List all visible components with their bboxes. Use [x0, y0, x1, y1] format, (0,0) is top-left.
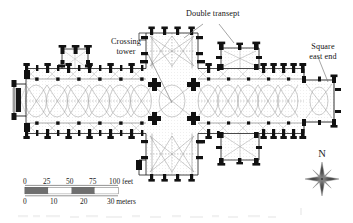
leader-double-transept-right	[219, 24, 234, 43]
figure-canvas: Double transept Crossing tower Square ea…	[0, 0, 353, 223]
scale-meters-tick-20: 20	[80, 197, 87, 206]
scale-bar-graphic	[25, 185, 118, 195]
annotation-label-double-transept: Double transept	[186, 9, 240, 19]
scale-feet-tick-50: 50	[66, 177, 73, 186]
square-east-end-line-1: Square	[300, 42, 346, 52]
scale-meters-tick-0: 0	[23, 197, 27, 206]
square-east-end-line-2: east end	[300, 52, 346, 62]
page-crop-artifact	[18, 208, 302, 218]
annotation-label-crossing-tower: Crossing tower	[103, 37, 149, 56]
scale-feet-tick-75: 75	[89, 177, 96, 186]
scale-feet-tick-0: 0	[23, 177, 27, 186]
scale-feet-tick-25: 25	[43, 177, 50, 186]
crossing-tower-line-2: tower	[103, 47, 149, 57]
compass-north-label: N	[314, 148, 330, 159]
compass-rose-icon	[305, 162, 339, 196]
scale-meters-tick-10: 10	[50, 197, 57, 206]
annotation-label-square-east-end: Square east end	[300, 42, 346, 61]
scale-feet-unit: 100 feet	[109, 177, 133, 186]
cathedral-plan-drawing	[0, 0, 353, 223]
crossing-tower-line-1: Crossing	[103, 37, 149, 47]
scale-meters-unit: 30 meters	[107, 197, 136, 206]
